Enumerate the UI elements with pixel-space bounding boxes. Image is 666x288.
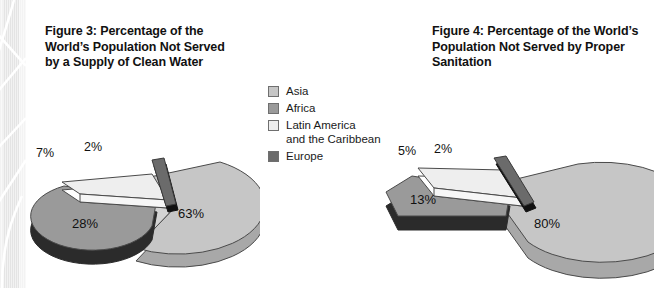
figure-4-label-africa: 13%: [410, 192, 436, 207]
legend-swatch-asia: [268, 86, 279, 97]
figure-3-label-europe: 2%: [84, 140, 102, 154]
figure-3-pie-chart: 63% 28% 7% 2%: [24, 138, 260, 278]
figure-4-label-latin-america: 5%: [398, 144, 416, 158]
legend-swatch-europe: [268, 151, 279, 162]
legend-item-asia: Asia: [268, 84, 381, 98]
figure-3-title: Figure 3: Percentage of the World’s Popu…: [45, 24, 235, 71]
legend-item-europe: Europe: [268, 149, 381, 163]
legend-item-africa: Africa: [268, 101, 381, 115]
page-edge-watermark: [0, 0, 26, 288]
figure-4-pie-svg: [382, 140, 654, 288]
legend-item-latin-america: Latin America and the Caribbean: [268, 118, 381, 146]
legend-swatch-latin-america: [268, 120, 279, 131]
figure-4-pie-chart: 80% 13% 5% 2%: [382, 140, 654, 288]
figure-page: Figure 3: Percentage of the World’s Popu…: [0, 0, 666, 288]
legend-label-europe: Europe: [286, 149, 323, 163]
legend-label-asia: Asia: [286, 84, 308, 98]
figure-3-label-asia: 63%: [178, 206, 204, 221]
legend-swatch-africa: [268, 103, 279, 114]
watermark-lines-icon: [0, 0, 26, 288]
legend-label-africa: Africa: [286, 101, 315, 115]
figure-4-label-asia: 80%: [534, 216, 560, 231]
figure-4-title: Figure 4: Percentage of the World’s Popu…: [432, 24, 647, 71]
figure-4-label-europe: 2%: [434, 142, 452, 156]
legend-label-latin-america: Latin America and the Caribbean: [286, 118, 381, 146]
figure-3-label-latin-america: 7%: [36, 146, 54, 160]
figure-3-pie-svg: [24, 138, 260, 278]
legend: Asia Africa Latin America and the Caribb…: [268, 84, 381, 166]
figure-3-label-africa: 28%: [72, 216, 98, 231]
